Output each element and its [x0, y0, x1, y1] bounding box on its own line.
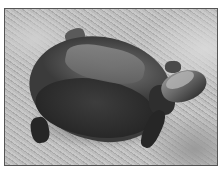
turtle-photo [4, 8, 218, 166]
